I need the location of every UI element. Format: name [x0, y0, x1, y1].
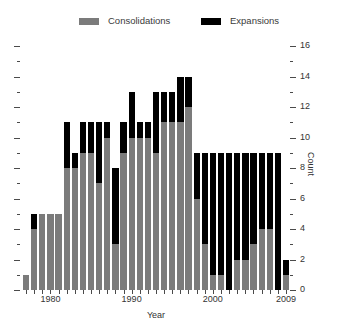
x-axis-tick: [75, 290, 76, 294]
y-axis-tick-label: 14: [300, 72, 310, 81]
bar-segment-consolidations: [242, 260, 248, 291]
bar-segment-consolidations: [47, 214, 53, 290]
x-axis-tick: [229, 290, 230, 294]
bar-column: [87, 46, 95, 290]
bar-segment-consolidations: [202, 244, 208, 290]
bar-column: [217, 46, 225, 290]
bar-segment-consolidations: [169, 122, 175, 290]
bar-segment-expansions: [96, 122, 102, 183]
axis-tick: [14, 46, 20, 47]
x-axis-tick: [26, 290, 27, 294]
axis-tick: [290, 107, 296, 108]
axis-tick: [14, 260, 20, 261]
bar-segment-consolidations: [120, 153, 126, 290]
bar-column: [233, 46, 241, 290]
bar-column: [176, 46, 184, 290]
axis-tick: [290, 61, 293, 62]
bar-segment-expansions: [120, 122, 126, 153]
axis-tick: [290, 138, 296, 139]
x-axis-tick: [115, 290, 116, 294]
axis-tick: [290, 214, 293, 215]
bar-column: [63, 46, 71, 290]
bar-segment-consolidations: [194, 199, 200, 291]
y-axis-tick-label: 8: [300, 163, 305, 172]
axis-tick: [17, 61, 20, 62]
bar-segment-expansions: [145, 122, 151, 137]
x-axis-label: Year: [0, 310, 312, 320]
bar-segment-expansions: [161, 92, 167, 123]
bar-segment-consolidations: [104, 138, 110, 291]
bar-column: [258, 46, 266, 290]
x-axis-tick: [164, 290, 165, 294]
bar-segment-consolidations: [55, 214, 61, 290]
bar-segment-expansions: [283, 260, 289, 275]
bar-column: [282, 46, 290, 290]
bar-segment-expansions: [234, 153, 240, 260]
bar-segment-consolidations: [218, 275, 224, 290]
axis-tick: [290, 168, 296, 169]
legend-swatch-consolidations: [79, 18, 99, 25]
bar-segment-consolidations: [259, 229, 265, 290]
bar-segment-consolidations: [185, 107, 191, 290]
axis-tick: [290, 153, 293, 154]
legend-swatch-expansions: [201, 18, 221, 25]
bar-segment-consolidations: [177, 122, 183, 290]
x-axis-tick: [253, 290, 254, 294]
axis-tick: [17, 214, 20, 215]
bar-column: [266, 46, 274, 290]
bar-segment-consolidations: [80, 153, 86, 290]
bar-segment-expansions: [242, 153, 248, 260]
bar-segment-expansions: [210, 153, 216, 275]
bar-segment-consolidations: [129, 138, 135, 291]
x-axis-tick: [83, 290, 84, 294]
axis-tick: [17, 183, 20, 184]
x-axis-ticks: [22, 290, 290, 295]
bar-column: [193, 46, 201, 290]
axis-tick: [290, 290, 296, 291]
bar-segment-consolidations: [64, 168, 70, 290]
bar-segment-expansions: [104, 122, 110, 137]
bar-column: [136, 46, 144, 290]
bar-segment-consolidations: [72, 168, 78, 290]
axis-tick: [14, 168, 20, 169]
x-axis-tick: [67, 290, 68, 294]
bar-segment-consolidations: [145, 138, 151, 291]
y-axis-label: Count: [306, 152, 316, 176]
bar-segment-consolidations: [267, 229, 273, 290]
axis-tick: [290, 183, 293, 184]
bar-segment-expansions: [31, 214, 37, 229]
bar-column: [111, 46, 119, 290]
bar-segment-consolidations: [234, 260, 240, 291]
bar-segment-consolidations: [210, 275, 216, 290]
bar-segment-expansions: [202, 153, 208, 245]
bar-column: [22, 46, 30, 290]
x-axis-tick: [148, 290, 149, 294]
bar-series-container: [22, 46, 290, 290]
axis-tick: [290, 92, 293, 93]
x-axis-tick-label: 1980: [40, 294, 60, 304]
bar-column: [71, 46, 79, 290]
bar-segment-expansions: [153, 92, 159, 153]
bar-column: [95, 46, 103, 290]
bar-column: [46, 46, 54, 290]
x-axis-tick: [156, 290, 157, 294]
x-axis-tick-label: 1990: [122, 294, 142, 304]
chart-legend: Consolidations Expansions: [0, 12, 346, 32]
y-axis-tick-label: 12: [300, 102, 310, 111]
x-axis-tick: [34, 290, 35, 294]
axis-tick: [290, 46, 296, 47]
bar-segment-consolidations: [23, 275, 29, 290]
bar-column: [55, 46, 63, 290]
x-axis-tick: [245, 290, 246, 294]
x-axis-tick: [237, 290, 238, 294]
bar-column: [241, 46, 249, 290]
bar-segment-expansions: [129, 92, 135, 138]
axis-tick: [17, 92, 20, 93]
y-axis-tick-label: 0: [300, 285, 305, 294]
x-axis-tick: [172, 290, 173, 294]
bar-segment-expansions: [80, 122, 86, 153]
x-axis-tick: [270, 290, 271, 294]
bar-segment-expansions: [112, 168, 118, 244]
axis-tick: [14, 229, 20, 230]
bar-column: [274, 46, 282, 290]
